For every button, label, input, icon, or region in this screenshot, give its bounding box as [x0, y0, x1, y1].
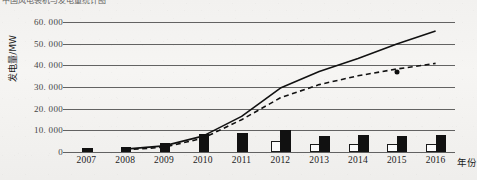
line-series-group — [67, 22, 455, 152]
x-tick-label: 2011 — [232, 155, 251, 165]
x-tick-label: 2016 — [426, 155, 446, 165]
chart-figure: 中国风电装机与发电量统计图 发电量/MW 60. 000 50. 000 40.… — [0, 0, 477, 180]
figure-caption: 中国风电装机与发电量统计图 — [2, 0, 302, 5]
y-tick-label: 40. 000 — [34, 60, 63, 70]
dashed-trend-line — [125, 63, 435, 149]
x-tick-label: 2008 — [115, 155, 135, 165]
x-tick-label: 2009 — [154, 155, 174, 165]
x-axis-line: 0 — [67, 152, 455, 153]
x-tick-label: 2012 — [270, 155, 290, 165]
x-axis-title: 年份 — [457, 155, 477, 169]
y-tick-label: 0 — [58, 147, 63, 157]
solid-trend-line — [125, 31, 435, 149]
x-tick-label: 2010 — [193, 155, 213, 165]
plot-area: 60. 000 50. 000 40. 000 30. 000 20. 000 … — [67, 22, 455, 152]
y-tick-label: 10. 000 — [34, 125, 63, 135]
y-tick-label: 50. 000 — [34, 39, 63, 49]
x-tick-label: 2014 — [348, 155, 368, 165]
y-tick-label: 30. 000 — [34, 82, 63, 92]
x-tick-label: 2013 — [309, 155, 329, 165]
y-tick-label: 60. 000 — [34, 17, 63, 27]
y-tick-label: 20. 000 — [34, 104, 63, 114]
x-tick-label: 2015 — [387, 155, 407, 165]
y-axis-title: 发电量/MW — [6, 29, 19, 89]
x-tick-label: 2007 — [76, 155, 96, 165]
data-point-marker — [394, 70, 399, 75]
